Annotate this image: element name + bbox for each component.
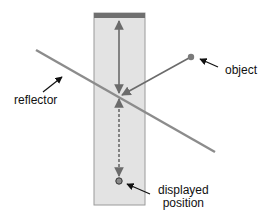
reflector-pointer-arrow <box>43 77 62 92</box>
reflector-label: reflector <box>14 94 57 107</box>
object-dot <box>188 54 194 60</box>
displayed-label-line2: position <box>158 197 209 210</box>
displayed-position-label: displayed position <box>158 184 209 210</box>
object-pointer-arrow <box>200 59 218 67</box>
reflection-diagram <box>0 0 268 221</box>
panel-top-bar <box>94 13 145 18</box>
object-label: object <box>225 64 257 77</box>
displayed-position-marker <box>116 178 122 184</box>
